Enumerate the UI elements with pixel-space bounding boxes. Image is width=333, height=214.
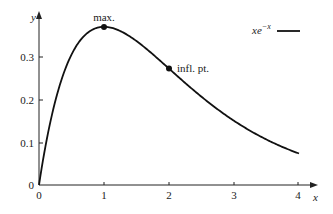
- x-axis-label: x: [312, 191, 318, 203]
- chart: 0 1 2 3 4 0 0.1 0.2 0.3 y x max. infl. p…: [0, 0, 333, 214]
- x-tick-4: 4: [295, 189, 301, 201]
- x-tick-labels: 0 1 2 3 4: [36, 189, 301, 201]
- max-label: max.: [93, 11, 115, 23]
- y-tick-0.1: 0.1: [20, 137, 34, 149]
- max-point: [101, 24, 107, 30]
- inflection-point: [166, 66, 172, 72]
- y-tick-0: 0: [29, 179, 35, 191]
- legend: xe−x: [251, 22, 300, 36]
- y-tick-0.2: 0.2: [20, 94, 34, 106]
- inflection-label: infl. pt.: [177, 62, 209, 74]
- x-tick-2: 2: [166, 189, 172, 201]
- y-tick-0.3: 0.3: [20, 51, 34, 63]
- y-ticks: [39, 57, 43, 143]
- y-axis-label: y: [30, 11, 36, 23]
- y-tick-labels: 0 0.1 0.2 0.3: [20, 51, 34, 191]
- x-axis-arrow-icon: [310, 182, 318, 188]
- x-tick-3: 3: [231, 189, 237, 201]
- x-tick-1: 1: [101, 189, 107, 201]
- y-axis-arrow-icon: [36, 11, 42, 19]
- x-tick-0: 0: [36, 189, 42, 201]
- curve-xe-neg-x: [39, 27, 299, 185]
- legend-label: xe−x: [251, 22, 271, 36]
